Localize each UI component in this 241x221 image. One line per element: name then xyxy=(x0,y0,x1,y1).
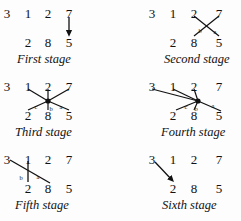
edge-label-b: b xyxy=(47,106,55,113)
number-top-2: 1 xyxy=(22,7,34,20)
number-top-4: 7 xyxy=(213,153,225,166)
center-node xyxy=(45,98,50,103)
panel-second-stage: 3 1 2 7 2 8 5 b a Second stage xyxy=(120,0,240,74)
number-top-4: 7 xyxy=(213,7,225,20)
caption-sixth-stage: Sixth stage xyxy=(162,199,217,212)
number-bottom-1: 2 xyxy=(167,182,179,195)
number-top-3: 2 xyxy=(188,153,200,166)
edge-label-b: b xyxy=(17,175,25,182)
edge-label-a: a xyxy=(209,103,217,110)
number-top-1: 3 xyxy=(146,80,158,93)
number-bottom-1: 2 xyxy=(22,182,34,195)
number-top-3: 2 xyxy=(42,153,54,166)
number-bottom-2: 8 xyxy=(42,182,54,195)
edge-label-a: a xyxy=(57,104,65,111)
panel-first-stage: 3 1 2 7 2 8 5 First stage xyxy=(0,0,120,74)
number-top-1: 3 xyxy=(146,7,158,20)
number-top-3: 2 xyxy=(188,80,200,93)
number-top-4: 7 xyxy=(63,7,75,20)
number-bottom-2: 8 xyxy=(42,36,54,49)
caption-second-stage: Second stage xyxy=(164,53,230,66)
caption-third-stage: Third stage xyxy=(15,126,72,139)
edge-label-b: b xyxy=(196,28,204,35)
number-bottom-3: 5 xyxy=(63,109,75,122)
number-top-2: 1 xyxy=(22,153,34,166)
number-bottom-3: 5 xyxy=(213,109,225,122)
panel-fifth-stage: 3 1 2 7 2 8 5 b a Fifth stage xyxy=(0,146,120,220)
number-bottom-3: 5 xyxy=(213,36,225,49)
number-top-4: 7 xyxy=(63,80,75,93)
number-bottom-3: 5 xyxy=(63,36,75,49)
number-top-4: 7 xyxy=(213,80,225,93)
number-top-2: 1 xyxy=(22,80,34,93)
panel-fourth-stage: 3 1 2 7 2 8 5 c b a Fourth stage xyxy=(120,73,240,147)
number-top-1: 3 xyxy=(1,80,13,93)
number-top-2: 1 xyxy=(167,7,179,20)
number-bottom-3: 5 xyxy=(213,182,225,195)
number-bottom-1: 2 xyxy=(167,36,179,49)
edge-label-b: b xyxy=(192,106,200,113)
caption-fourth-stage: Fourth stage xyxy=(161,126,225,139)
number-top-3: 2 xyxy=(42,80,54,93)
stages-figure: 3 1 2 7 2 8 5 First stage 3 1 2 7 2 8 5 … xyxy=(0,0,241,221)
number-top-3: 2 xyxy=(42,7,54,20)
number-bottom-3: 5 xyxy=(63,182,75,195)
edge-label-c: c xyxy=(182,104,190,111)
panel-sixth-stage: 3 1 2 7 2 8 5 Sixth stage xyxy=(120,146,240,220)
number-bottom-2: 8 xyxy=(188,36,200,49)
number-bottom-2: 8 xyxy=(188,182,200,195)
edge-label-a: a xyxy=(211,29,219,36)
caption-fifth-stage: Fifth stage xyxy=(15,199,69,212)
number-top-1: 3 xyxy=(1,153,13,166)
number-top-4: 7 xyxy=(63,153,75,166)
center-node xyxy=(195,98,200,103)
number-top-2: 1 xyxy=(167,80,179,93)
panel-third-stage: 3 1 2 7 2 8 5 c b a Third stage xyxy=(0,73,120,147)
edge-label-a: a xyxy=(34,174,42,181)
caption-first-stage: First stage xyxy=(17,53,71,66)
number-bottom-1: 2 xyxy=(167,109,179,122)
number-top-3: 2 xyxy=(188,7,200,20)
number-top-2: 1 xyxy=(167,153,179,166)
number-top-1: 3 xyxy=(1,7,13,20)
number-bottom-1: 2 xyxy=(22,109,34,122)
edge-label-c: c xyxy=(32,104,40,111)
number-top-1: 3 xyxy=(146,153,158,166)
number-bottom-1: 2 xyxy=(22,36,34,49)
